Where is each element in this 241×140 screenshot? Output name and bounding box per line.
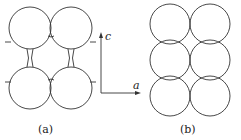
sphere: [190, 76, 230, 116]
panel-b-label: (b): [180, 123, 196, 136]
sphere: [190, 4, 230, 44]
neck-left: [27, 49, 33, 67]
sphere: [9, 67, 51, 109]
sphere: [190, 40, 230, 80]
panel-a: [5, 7, 96, 109]
panel-b: [150, 4, 230, 116]
figure: c a (a) (b): [0, 0, 241, 140]
sphere: [150, 76, 190, 116]
panel-a-label: (a): [38, 123, 53, 136]
c-axis-label: c: [105, 30, 111, 43]
sphere: [9, 7, 51, 49]
sphere: [150, 4, 190, 44]
sphere: [150, 40, 190, 80]
a-axis-label: a: [133, 79, 140, 92]
sphere: [50, 7, 92, 49]
sphere: [50, 67, 92, 109]
c-arrowhead: [99, 32, 103, 38]
neck-right: [68, 49, 74, 67]
